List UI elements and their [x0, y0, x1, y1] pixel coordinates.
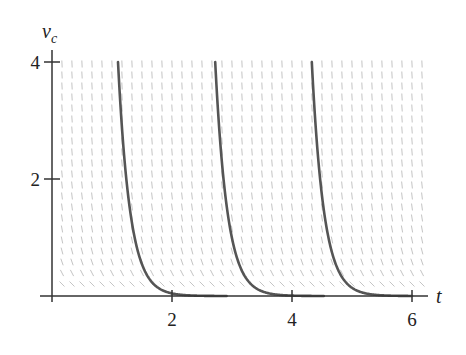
slope-mark	[200, 282, 205, 287]
slope-mark	[212, 149, 213, 156]
slope-mark	[232, 138, 233, 145]
slope-mark	[322, 138, 323, 145]
slope-mark	[252, 204, 253, 211]
slope-mark	[62, 138, 63, 145]
slope-mark	[342, 171, 343, 178]
slope-mark	[232, 149, 233, 156]
slope-mark	[421, 226, 422, 233]
slope-mark	[410, 270, 413, 276]
slope-mark	[121, 259, 123, 266]
slope-mark	[182, 204, 183, 211]
slope-mark	[332, 171, 333, 178]
slope-mark	[201, 226, 202, 233]
slope-mark	[292, 193, 293, 200]
slope-mark	[421, 248, 423, 255]
slope-mark	[252, 149, 253, 156]
slope-mark	[292, 171, 293, 178]
slope-mark	[392, 204, 393, 211]
y-axis-label-main: v	[42, 20, 51, 42]
slope-mark	[290, 282, 295, 287]
slope-mark	[302, 182, 303, 189]
slope-mark	[112, 149, 113, 156]
slope-mark	[352, 204, 353, 211]
slope-mark	[61, 226, 62, 233]
slope-mark	[401, 237, 402, 244]
slope-mark	[92, 160, 93, 167]
x-axis-label: t	[436, 285, 442, 307]
slope-mark	[212, 193, 213, 200]
slope-mark	[242, 138, 243, 145]
slope-mark	[162, 138, 163, 145]
y-axis-label: vc	[42, 20, 58, 46]
slope-mark	[232, 160, 233, 167]
slope-mark	[81, 259, 83, 266]
slope-mark	[192, 171, 193, 178]
slope-mark	[272, 204, 273, 211]
slope-mark	[341, 248, 343, 255]
slope-mark	[162, 193, 163, 200]
slope-mark	[362, 182, 363, 189]
slope-mark	[231, 215, 232, 222]
slope-mark	[220, 270, 223, 276]
slope-mark	[110, 270, 113, 276]
slope-mark	[112, 160, 113, 167]
slope-mark	[342, 149, 343, 156]
x-tick-label: 6	[407, 309, 417, 330]
slope-mark	[172, 193, 173, 200]
slope-mark	[281, 226, 282, 233]
slope-mark	[112, 127, 113, 134]
slope-mark	[201, 248, 203, 255]
slope-mark	[230, 282, 235, 287]
slope-mark	[381, 215, 382, 222]
slope-mark	[291, 215, 292, 222]
slope-mark	[171, 248, 173, 255]
slope-mark	[62, 182, 63, 189]
slope-mark	[211, 259, 213, 266]
slope-mark	[320, 270, 323, 276]
slope-mark	[281, 259, 283, 266]
slope-field-chart: 246 24 t vc	[0, 0, 466, 355]
slope-mark	[260, 282, 265, 287]
slope-mark	[192, 149, 193, 156]
slope-mark	[411, 226, 412, 233]
slope-mark	[181, 248, 183, 255]
slope-mark	[212, 204, 213, 211]
slope-mark	[312, 193, 313, 200]
slope-mark	[352, 138, 353, 145]
slope-mark	[321, 215, 322, 222]
slope-mark	[61, 215, 62, 222]
slope-mark	[81, 226, 82, 233]
slope-mark	[72, 182, 73, 189]
slope-mark	[71, 259, 73, 266]
slope-mark	[341, 259, 343, 266]
slope-mark	[82, 204, 83, 211]
slope-mark	[191, 259, 193, 266]
slope-mark	[82, 127, 83, 134]
slope-mark	[421, 259, 423, 266]
slope-mark	[272, 171, 273, 178]
slope-mark	[142, 160, 143, 167]
slope-mark	[362, 127, 363, 134]
slope-mark	[272, 182, 273, 189]
slope-mark	[242, 182, 243, 189]
slope-mark	[162, 160, 163, 167]
slope-mark	[292, 182, 293, 189]
slope-mark	[282, 149, 283, 156]
slope-mark	[311, 259, 313, 266]
slope-mark	[111, 248, 113, 255]
slope-mark	[272, 149, 273, 156]
slope-mark	[100, 282, 105, 287]
slope-mark	[271, 215, 272, 222]
slope-mark	[191, 248, 193, 255]
slope-mark	[322, 127, 323, 134]
slope-mark	[90, 282, 95, 287]
slope-mark	[132, 193, 133, 200]
slope-mark	[91, 215, 92, 222]
slope-mark	[332, 160, 333, 167]
slope-mark	[232, 193, 233, 200]
slope-mark	[271, 259, 273, 266]
slope-mark	[332, 204, 333, 211]
slope-mark	[152, 171, 153, 178]
slope-mark	[292, 138, 293, 145]
slope-mark	[91, 248, 93, 255]
